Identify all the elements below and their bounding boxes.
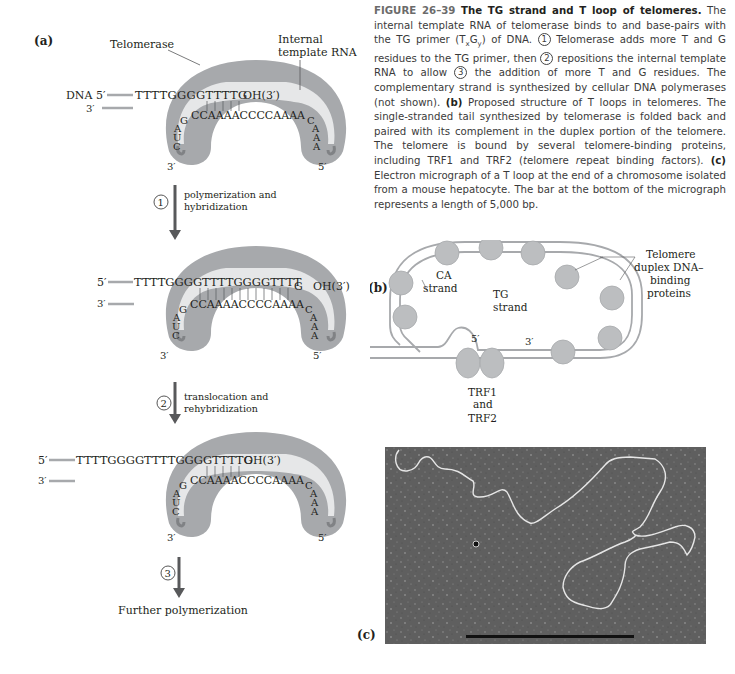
- electron-micrograph: [385, 447, 706, 644]
- rna-base: C: [172, 330, 180, 341]
- template-label-line2: template RNA: [278, 46, 358, 59]
- dna-sequence: TTTTGGGGTTTTG: [135, 88, 247, 102]
- arrow-head-icon: [173, 588, 185, 598]
- step-1-marker: 1: [538, 33, 551, 46]
- step-2-number: 2: [161, 398, 167, 409]
- caption-panel-label: (b): [446, 97, 463, 108]
- figure-title: The TG strand and T loop of telomeres.: [461, 5, 702, 16]
- caption-text: G: [470, 34, 478, 45]
- oh-3prime-label: OH(3′): [243, 89, 280, 102]
- bottom-3prime-label: 3′: [86, 103, 95, 114]
- rna-template-sequence: CCAAAACCCCAAAA: [191, 109, 306, 122]
- rna-base: A: [310, 506, 319, 517]
- step-2-label-line2: rehybridization: [184, 403, 258, 414]
- end-3prime: 3′: [167, 161, 176, 172]
- micrograph-dot: [473, 541, 479, 547]
- dna-tail-base: G: [294, 280, 303, 293]
- end-3prime: 3′: [160, 350, 169, 361]
- dna-sequence: TTTTGGGGTTTTGGGGTTTTG: [76, 453, 253, 467]
- rna-base: A: [312, 141, 321, 152]
- step-1-label-line2: hybridization: [184, 201, 248, 212]
- tg-strand-label-line1: TG: [493, 288, 508, 300]
- ca-strand-label-line2: strand: [423, 282, 458, 294]
- micrograph-image: [385, 447, 706, 644]
- rna-base: C: [173, 141, 181, 152]
- tg-strand-label-line2: strand: [493, 301, 528, 313]
- rna-base: A: [310, 330, 319, 341]
- oh-3prime-label: OH(3′): [244, 454, 281, 467]
- caption-panel-label: (c): [711, 155, 726, 166]
- scale-bar: [466, 635, 634, 638]
- rna-template-sequence: CCAAAACCCCAAAA: [190, 298, 305, 311]
- trf-label-line2: and: [473, 398, 493, 410]
- protein-leader-line: [575, 257, 603, 270]
- dna-5prime-label: DNA 5′: [66, 89, 106, 102]
- dna-5prime-label: 5′: [38, 454, 48, 467]
- step-1-number: 1: [158, 197, 164, 208]
- figure-number: FIGURE 26–39: [374, 5, 455, 16]
- telomerase-leader-line: [168, 50, 200, 65]
- panel-c-label: (c): [357, 628, 376, 642]
- oh-3prime-label: OH(3′): [313, 280, 350, 293]
- end-5prime: 5′: [318, 532, 327, 543]
- three-prime-label: 3′: [525, 336, 534, 347]
- proteins-label-line3: binding: [650, 274, 691, 286]
- dna-5prime-label: 5′: [97, 276, 107, 289]
- proteins-label-line2: duplex DNA–: [634, 261, 703, 273]
- end-5prime: 5′: [318, 161, 327, 172]
- template-label-line1: Internal: [278, 33, 323, 46]
- bottom-3prime-label: 3′: [38, 475, 47, 486]
- trf-label-line1: TRF1: [468, 386, 497, 398]
- step-2-label-line1: translocation and: [184, 391, 268, 402]
- trf-label-line3: TRF2: [468, 412, 497, 424]
- caption-text: Electron micrograph of a T loop at the e…: [374, 170, 726, 210]
- step-2-marker: 2: [540, 52, 553, 65]
- ca-strand-label-line1: CA: [436, 269, 452, 281]
- figure-caption: FIGURE 26–39 The TG strand and T loop of…: [374, 4, 726, 212]
- proteins-label-line4: proteins: [647, 287, 691, 299]
- proteins-label-line1: Telomere: [646, 248, 696, 260]
- step-3-number: 3: [165, 568, 171, 579]
- caption-text: elomere: [527, 155, 576, 166]
- end-5prime: 5′: [313, 350, 322, 361]
- step-1-label-line1: polymerization and: [184, 189, 277, 200]
- caption-text: ) of DNA.: [482, 34, 532, 45]
- five-prime-label: 5′: [471, 333, 480, 344]
- rna-base: C: [172, 506, 180, 517]
- dna-sequence: TTTTGGGGTTTTGGGGTTTT: [134, 275, 302, 289]
- panel-a-diagram: Telomerase Internal template RNA DNA 5′ …: [0, 0, 365, 674]
- arrow-head-icon: [169, 230, 181, 240]
- arrow-head-icon: [169, 414, 181, 424]
- telomerase-label: Telomerase: [110, 38, 174, 51]
- panel-b-label: (b): [370, 281, 388, 295]
- trf-proteins: [456, 348, 504, 378]
- panel-b-diagram: (b) CA strand TG strand 5′ 3′ Telomere d…: [370, 240, 735, 420]
- caption-text: actors).: [665, 155, 704, 166]
- caption-text: epeat binding: [580, 155, 661, 166]
- bottom-3prime-label: 3′: [97, 298, 106, 309]
- step-3-marker: 3: [454, 66, 467, 79]
- further-polymerization-label: Further polymerization: [118, 604, 248, 617]
- end-3prime: 3′: [167, 532, 176, 543]
- rna-template-sequence: CCAAAACCCCAAAA: [190, 474, 305, 487]
